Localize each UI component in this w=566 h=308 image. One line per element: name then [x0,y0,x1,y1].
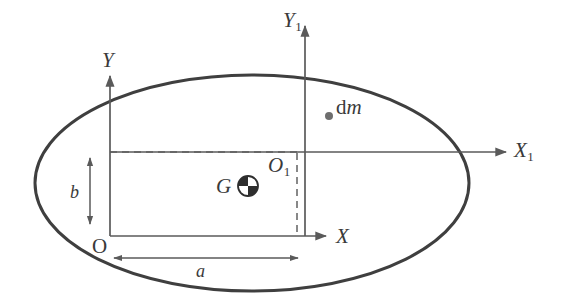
axis-label-x1: X1 [514,140,534,163]
figure-canvas: Y1 X1 Y X O O1 G dm a b [0,0,566,308]
dm-point-marker [325,112,333,120]
axis-label-x: X [336,226,349,247]
center-of-mass-marker [238,176,258,196]
point-label-g: G [216,176,231,197]
dimension-label-a: a [196,262,205,280]
dimension-label-b: b [70,183,79,201]
axis-label-y: Y [102,50,114,71]
point-label-dm: dm [336,97,362,118]
point-label-o1: O1 [268,155,290,178]
point-label-o: O [92,236,107,257]
axis-label-y1: Y1 [283,10,302,33]
